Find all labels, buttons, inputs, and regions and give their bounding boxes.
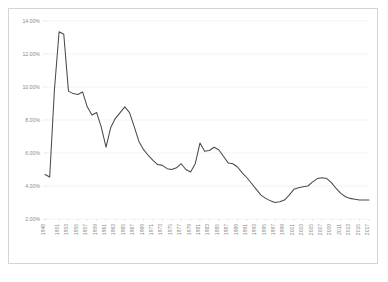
chart-card: 2.00%4.00%6.00%8.00%10.00%12.00%14.00% 1… [8, 8, 378, 264]
x-axis-label: 1957 [82, 224, 88, 235]
y-axis-label: 14.00% [22, 18, 40, 24]
x-axis-label: 1948 [40, 224, 46, 235]
x-axis-label: 1995 [261, 224, 267, 235]
x-axis-label: 1969 [139, 224, 145, 235]
x-axis-label: 1973 [157, 224, 163, 235]
y-axis-tick-labels: 2.00%4.00%6.00%8.00%10.00%12.00%14.00% [22, 18, 40, 222]
x-axis-label: 1971 [148, 224, 154, 235]
x-axis-label: 1975 [167, 224, 173, 235]
x-axis-label: 1951 [54, 224, 60, 235]
x-axis-label: 1993 [251, 224, 257, 235]
chart-plot-area: 2.00%4.00%6.00%8.00%10.00%12.00%14.00% 1… [9, 9, 377, 263]
x-axis-label: 1981 [195, 224, 201, 235]
y-axis-label: 4.00% [25, 183, 40, 189]
y-axis-label: 8.00% [25, 117, 40, 123]
x-axis-label: 2017 [364, 224, 370, 235]
x-axis-label: 2007 [317, 224, 323, 235]
x-axis-label: 1997 [270, 224, 276, 235]
x-axis-label: 1955 [73, 224, 79, 235]
x-axis-label: 2001 [289, 224, 295, 235]
x-axis-label: 1967 [129, 224, 135, 235]
x-axis-label: 1987 [223, 224, 229, 235]
x-axis-label: 1999 [279, 224, 285, 235]
x-axis-label: 2005 [308, 224, 314, 235]
x-axis-label: 2013 [345, 224, 351, 235]
x-axis-label: 1963 [110, 224, 116, 235]
gridlines-group [43, 21, 369, 219]
x-axis-label: 1953 [63, 224, 69, 235]
x-axis-tick-labels: 1948195119531955195719591961196319651967… [40, 219, 370, 235]
x-axis-label: 1983 [204, 224, 210, 235]
x-axis-label: 1959 [92, 224, 98, 235]
y-axis-label: 10.00% [22, 84, 40, 90]
x-axis-label: 1985 [214, 224, 220, 235]
y-axis-label: 2.00% [25, 216, 40, 222]
x-axis-label: 2011 [336, 224, 342, 235]
x-axis-label: 1977 [176, 224, 182, 235]
x-axis-label: 1979 [186, 224, 192, 235]
x-axis-label: 2015 [355, 224, 361, 235]
x-axis-label: 1989 [233, 224, 239, 235]
line-chart: 2.00%4.00%6.00%8.00%10.00%12.00%14.00% 1… [9, 9, 377, 263]
y-axis-label: 6.00% [25, 150, 40, 156]
x-axis-label: 1961 [101, 224, 107, 235]
x-axis-label: 2003 [298, 224, 304, 235]
x-axis-label: 1991 [242, 224, 248, 235]
y-axis-label: 12.00% [22, 51, 40, 57]
x-axis-label: 2009 [326, 224, 332, 235]
series-line-rate [45, 32, 369, 203]
x-axis-label: 1965 [120, 224, 126, 235]
